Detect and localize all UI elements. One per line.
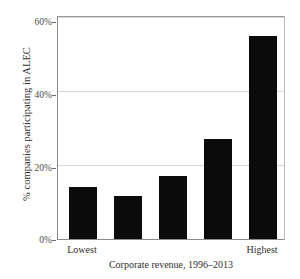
bar-second xyxy=(114,196,142,239)
x-axis-category-labels: Lowest Highest xyxy=(57,243,285,257)
bar-fourth xyxy=(204,139,232,239)
y-tick-label-40: 40% xyxy=(18,90,52,100)
y-axis-ticks: 60% 40% 20% 0% xyxy=(16,0,52,279)
y-tick-mark-40 xyxy=(52,95,56,96)
plot-area xyxy=(57,16,285,240)
y-tick-mark-20 xyxy=(52,168,56,169)
y-tick-label-60: 60% xyxy=(18,17,52,27)
x-cat-label-lowest: Lowest xyxy=(52,243,112,256)
x-axis-title: Corporate revenue, 1996–2013 xyxy=(57,258,285,271)
y-tick-mark-0 xyxy=(52,240,56,241)
y-tick-mark-60 xyxy=(52,22,56,23)
bar-highest xyxy=(249,36,277,240)
x-cat-label-highest: Highest xyxy=(232,243,292,256)
bar-lowest xyxy=(69,187,97,239)
y-tick-label-20: 20% xyxy=(18,163,52,173)
bar-third xyxy=(159,176,187,239)
bar-chart-figure: % companies participating in ALEC 60% 40… xyxy=(0,0,300,279)
y-tick-label-0: 0% xyxy=(18,235,52,245)
bar-series xyxy=(58,17,284,239)
